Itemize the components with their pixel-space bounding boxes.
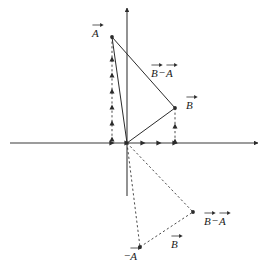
vector-term-a: A [92,22,99,39]
vector-a-shaft [112,37,127,143]
vector-term-b: B [186,94,193,111]
b-dashed-shaft [140,212,193,247]
a-guide-tick-2 [110,88,115,93]
axes-group [10,8,258,196]
a-guide-tick-0 [110,56,115,61]
label-a-upper: A [92,22,99,39]
vector-term-b: B [204,210,211,227]
minus-operator: − [158,67,166,78]
vector-diagram-figure: AB−AB−ABB−A [0,0,268,273]
x-axis-tick-3 [156,141,161,146]
b-guide-tick-0 [173,123,178,128]
label-b-upper: B [186,94,193,111]
vector-diagram-canvas [0,0,268,273]
vector-symbol-a: A [92,28,99,39]
vector-symbol-b: B [186,100,193,111]
vector-symbol-b: B [171,239,178,250]
b-minus-a-dashed-shaft [127,143,193,212]
vector-term-b: B [171,233,178,250]
a-guide-tick-5 [110,136,115,141]
point-a-tip [110,35,114,39]
point-b-tip [173,106,177,110]
vector-symbol-b: B [204,216,211,227]
point-neg-a-tip [138,245,142,249]
a-guide-tick-1 [110,72,115,77]
x-axis-tick-2 [140,141,145,146]
vector-symbol-a: A [130,251,137,262]
point-b-minus-a-tip [191,210,195,214]
vector-symbol-a: A [219,216,226,227]
label-b-minus-a-upper: B−A [151,62,173,79]
vector-term-a: A [219,210,226,227]
vector-symbol-a: A [166,68,173,79]
minus-operator: − [211,215,219,226]
point-origin [126,142,129,145]
solid-vector-shafts [112,37,175,143]
vector-term-b: B [151,62,158,79]
a-guide-tick-4 [110,120,115,125]
label-b-minus-a-lower: B−A [204,210,226,227]
neg-a-shaft [127,143,140,247]
vector-symbol-b: B [151,68,158,79]
a-guide-tick-3 [110,104,115,109]
vector-term-a: A [166,62,173,79]
label-neg-a-lower: −A [124,245,137,262]
vector-term-a: A [130,245,137,262]
vector-b-shaft [127,108,175,143]
label-b-lower: B [171,233,178,250]
